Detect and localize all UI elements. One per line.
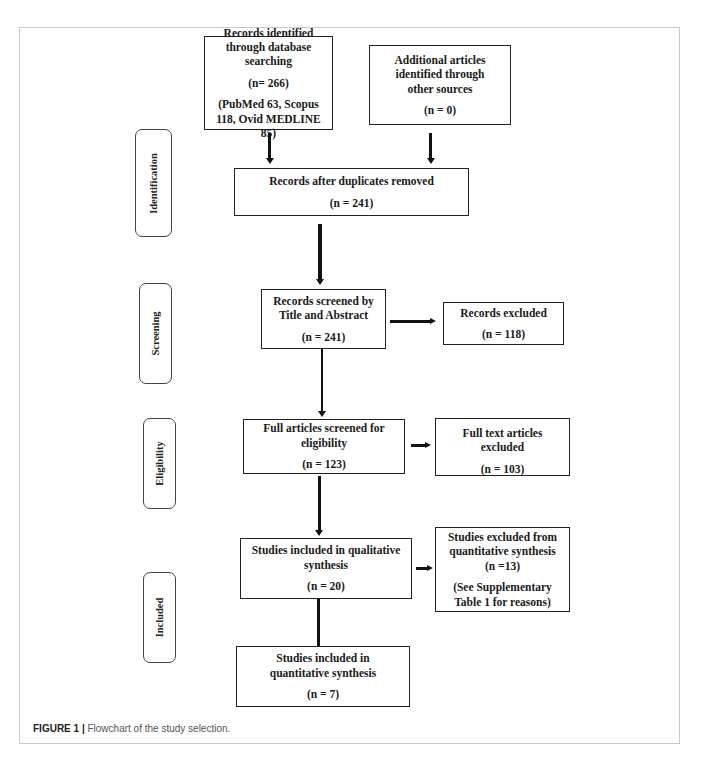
box-qualitative-count: (n = 20) [307, 579, 345, 593]
box-other-sources: Additional articles identified through o… [369, 45, 511, 125]
box-screened-title: Records screened by Title and Abstract [266, 294, 381, 323]
arrowhead [315, 530, 323, 536]
box-records-excluded: Records excluded (n = 118) [443, 302, 564, 345]
box-qualitative-title: Studies included in qualitative synthesi… [251, 543, 401, 572]
box-full-articles: Full articles screened for eligibility (… [243, 419, 405, 474]
box-screened: Records screened by Title and Abstract (… [261, 289, 386, 349]
stage-eligibility-label: Eligibility [154, 441, 165, 485]
box-records-excluded-count: (n = 118) [482, 327, 525, 341]
box-excluded-quantitative-detail: (See Supplementary Table 1 for reasons) [442, 580, 564, 609]
box-other-sources-count: (n = 0) [424, 103, 456, 117]
stage-screening-label: Screening [150, 311, 161, 355]
box-full-text-excluded-count: (n = 103) [481, 462, 525, 476]
stage-eligibility: Eligibility [143, 418, 176, 509]
box-other-sources-title: Additional articles identified through o… [385, 53, 495, 96]
box-excluded-quantitative-title: Studies excluded from quantitative synth… [444, 530, 562, 573]
box-quantitative-title: Studies included in quantitative synthes… [248, 651, 398, 680]
box-after-duplicates-title: Records after duplicates removed [269, 174, 434, 188]
arrow-other-to-duplicates [429, 133, 432, 159]
arrow-duplicates-to-screened [318, 224, 322, 280]
arrowhead [427, 565, 433, 571]
box-qualitative: Studies included in qualitative synthesi… [240, 538, 412, 599]
box-full-text-excluded: Full text articles excluded (n = 103) [435, 418, 570, 476]
stage-included: Included [143, 572, 176, 663]
box-after-duplicates-count: (n = 241) [330, 196, 374, 210]
figure-caption: FIGURE 1 | Flowchart of the study select… [33, 723, 230, 734]
arrowhead [318, 411, 326, 417]
box-full-text-excluded-title: Full text articles excluded [440, 426, 565, 455]
stage-identification: Identification [135, 129, 172, 237]
box-database-search: Records identified through database sear… [204, 36, 333, 130]
box-screened-count: (n = 241) [302, 330, 346, 344]
box-full-articles-count: (n = 123) [302, 457, 346, 471]
arrow-screened-to-full [321, 349, 323, 411]
box-excluded-quantitative: Studies excluded from quantitative synth… [435, 527, 570, 612]
arrowhead [316, 279, 324, 285]
stage-identification-label: Identification [148, 153, 159, 214]
box-database-search-title: Records identified through database sear… [209, 26, 328, 69]
box-records-excluded-title: Records excluded [460, 306, 547, 320]
arrow-screened-to-excluded [390, 320, 430, 323]
box-quantitative: Studies included in quantitative synthes… [236, 646, 410, 707]
box-quantitative-count: (n = 7) [307, 687, 339, 701]
arrow-full-to-qualitative [318, 476, 321, 530]
arrowhead [266, 158, 274, 164]
figure-caption-text: Flowchart of the study selection. [85, 723, 231, 734]
arrow-full-to-excluded [411, 444, 425, 447]
arrowhead [430, 318, 436, 324]
arrowhead [427, 158, 435, 164]
arrow-qualitative-to-quantitative [317, 599, 320, 647]
arrowhead [425, 442, 431, 448]
box-full-articles-title: Full articles screened for eligibility [259, 421, 389, 450]
figure-caption-label: FIGURE 1 | [33, 723, 85, 734]
stage-screening: Screening [139, 283, 172, 384]
box-after-duplicates: Records after duplicates removed (n = 24… [234, 168, 469, 216]
arrow-qualitative-to-excluded [416, 567, 427, 570]
figure-frame [19, 27, 680, 744]
arrow-database-to-duplicates [268, 133, 271, 159]
box-database-search-count: (n= 266) [248, 76, 289, 90]
stage-included-label: Included [154, 598, 165, 638]
